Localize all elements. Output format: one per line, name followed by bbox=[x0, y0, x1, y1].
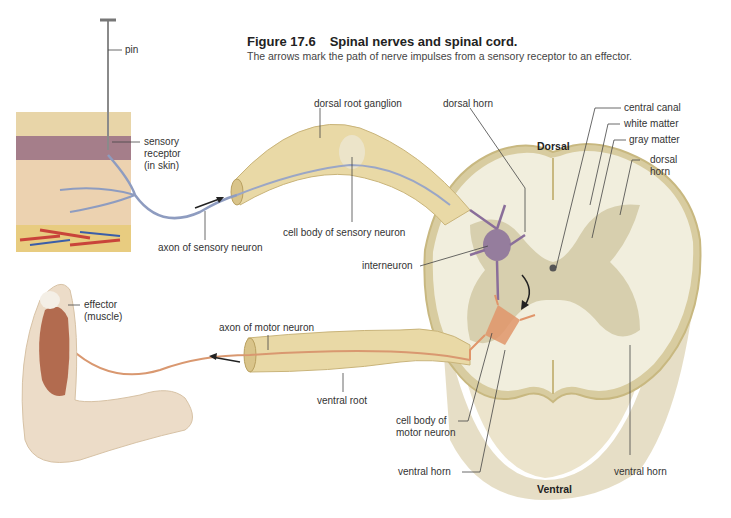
label-gray-matter: gray matter bbox=[629, 134, 680, 146]
label-central-canal: central canal bbox=[624, 102, 681, 114]
label-white-matter: white matter bbox=[624, 118, 678, 130]
label-ventral-root: ventral root bbox=[317, 395, 367, 407]
figure-caption: The arrows mark the path of nerve impuls… bbox=[247, 50, 632, 62]
figure-title: Figure 17.6Spinal nerves and spinal cord… bbox=[247, 34, 517, 49]
label-dorsal-horn-right: dorsal horn bbox=[650, 154, 677, 178]
figure-title-text: Spinal nerves and spinal cord. bbox=[330, 34, 518, 49]
label-sensory-receptor: sensory receptor (in skin) bbox=[144, 136, 181, 172]
label-pin: pin bbox=[125, 44, 138, 56]
label-ventral: Ventral bbox=[537, 483, 572, 495]
label-effector: effector (muscle) bbox=[84, 299, 122, 323]
figure-number: Figure 17.6 bbox=[247, 34, 316, 49]
label-cell-body-motor: cell body of motor neuron bbox=[396, 415, 455, 439]
skin-block bbox=[16, 112, 131, 252]
label-axon-motor: axon of motor neuron bbox=[219, 322, 314, 334]
label-dorsal: Dorsal bbox=[537, 140, 570, 152]
label-ventral-horn-right: ventral horn bbox=[614, 466, 667, 478]
label-ventral-horn-left: ventral horn bbox=[398, 466, 451, 478]
label-dorsal-horn-left: dorsal horn bbox=[443, 98, 493, 110]
label-axon-sensory: axon of sensory neuron bbox=[158, 242, 263, 254]
label-interneuron: interneuron bbox=[362, 260, 413, 272]
central-canal bbox=[550, 265, 557, 272]
label-dorsal-root-ganglion: dorsal root ganglion bbox=[314, 98, 402, 110]
label-cell-body-sensory: cell body of sensory neuron bbox=[283, 227, 405, 239]
diagram-artwork bbox=[0, 0, 731, 518]
